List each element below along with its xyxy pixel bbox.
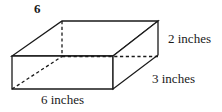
dimension-label-width: 6 inches [41, 93, 84, 106]
dimension-label-height: 2 inches [168, 32, 211, 45]
prism-front-face [12, 56, 113, 89]
figure-canvas: 6 2 inches 3 inches 6 inches [0, 0, 222, 112]
dimension-label-depth: 3 inches [152, 72, 195, 85]
rectangular-prism-drawing [0, 0, 222, 112]
problem-number: 6 [34, 2, 41, 15]
